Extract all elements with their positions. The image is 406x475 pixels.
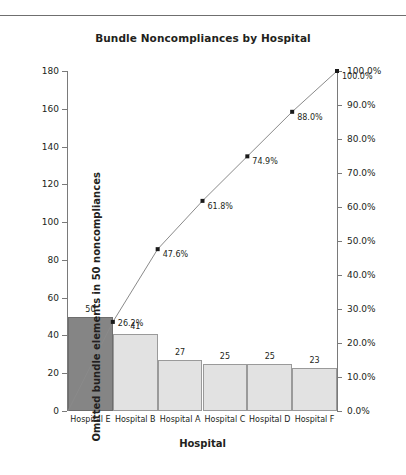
y-axis-right-tick-label: 70.0%	[347, 168, 376, 178]
y-axis-left-tick-label: 140	[42, 142, 59, 152]
y-axis-right-tick-label: 40.0%	[347, 270, 376, 280]
y-axis-left-tick	[62, 411, 67, 412]
x-axis-title: Hospital	[67, 438, 338, 449]
y-axis-right-tick-label: 20.0%	[347, 338, 376, 348]
figure-top-rule	[0, 15, 406, 16]
x-axis-category-label: Hospital F	[292, 415, 337, 424]
pareto-chart-figure: Bundle Noncompliances by Hospital 020406…	[0, 0, 406, 475]
y-axis-right-tick-label: 60.0%	[347, 202, 376, 212]
x-axis-category-label: Hospital D	[247, 415, 292, 424]
cumulative-point-marker[interactable]	[201, 199, 205, 203]
cumulative-point-marker[interactable]	[335, 69, 339, 73]
cumulative-point-marker[interactable]	[245, 154, 249, 158]
y-axis-left-tick-label: 80	[48, 255, 59, 265]
y-axis-right-tick-label: 30.0%	[347, 304, 376, 314]
y-axis-right-tick-label: 10.0%	[347, 372, 376, 382]
y-axis-left-tick-label: 20	[48, 368, 59, 378]
y-axis-title: Omitted bundle elements in 50 noncomplia…	[91, 182, 102, 442]
chart-title: Bundle Noncompliances by Hospital	[0, 32, 406, 44]
plot-area: 020406080100120140160180 0.0%10.0%20.0%3…	[67, 71, 338, 411]
y-axis-left-tick-label: 180	[42, 66, 59, 76]
cumulative-percent-label: 100.0%	[342, 72, 373, 81]
cumulative-line	[68, 71, 337, 411]
cumulative-percent-label: 74.9%	[252, 157, 277, 166]
x-axis-category-label: Hospital E	[68, 415, 113, 424]
x-axis-category-label: Hospital C	[203, 415, 248, 424]
cumulative-percent-label: 61.8%	[208, 201, 233, 210]
y-axis-left-tick-label: 120	[42, 179, 59, 189]
cumulative-percent-label: 88.0%	[297, 112, 322, 121]
cumulative-point-marker[interactable]	[111, 320, 115, 324]
cumulative-percent-label: 47.6%	[163, 250, 188, 259]
y-axis-left-tick-label: 60	[48, 293, 59, 303]
cumulative-percent-label: 26.2%	[118, 318, 143, 327]
y-axis-left-tick-label: 160	[42, 104, 59, 114]
y-axis-right-tick-label: 90.0%	[347, 100, 376, 110]
y-axis-right-tick-label: 0.0%	[347, 406, 370, 416]
x-axis-category-label: Hospital B	[113, 415, 158, 424]
y-axis-right-tick-label: 50.0%	[347, 236, 376, 246]
y-axis-right-tick-label: 80.0%	[347, 134, 376, 144]
cumulative-line-series	[67, 71, 338, 411]
y-axis-left-tick-label: 0	[53, 406, 59, 416]
y-axis-right-tick	[337, 411, 342, 412]
x-axis-category-label: Hospital A	[158, 415, 203, 424]
y-axis-left-tick-label: 40	[48, 330, 59, 340]
x-axis-category-labels: Hospital EHospital BHospital AHospital C…	[67, 415, 338, 429]
y-axis-left-tick-label: 100	[42, 217, 59, 227]
cumulative-point-marker[interactable]	[290, 110, 294, 114]
cumulative-point-marker[interactable]	[156, 247, 160, 251]
